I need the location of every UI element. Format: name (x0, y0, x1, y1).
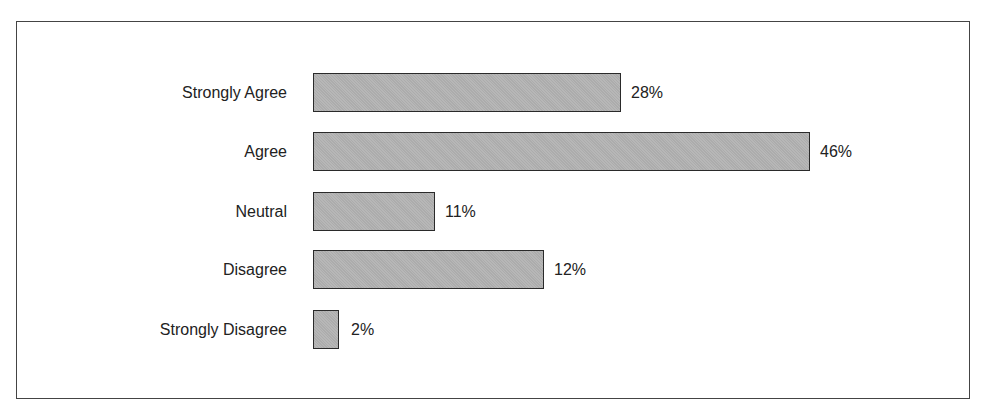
bar-strongly-disagree (313, 310, 339, 349)
category-label: Agree (0, 132, 287, 171)
bar-disagree (313, 250, 544, 289)
category-label: Strongly Disagree (0, 310, 287, 349)
bar-neutral (313, 192, 435, 231)
value-label: 12% (554, 250, 586, 289)
bar-row-strongly-disagree: Strongly Disagree 2% (17, 310, 969, 349)
value-label: 11% (445, 192, 476, 231)
bar-row-neutral: Neutral 11% (17, 192, 969, 231)
category-label: Disagree (0, 250, 287, 289)
chart-frame: Strongly Agree 28% Agree 46% Neutral 11%… (16, 21, 970, 399)
bar-row-strongly-agree: Strongly Agree 28% (17, 73, 969, 112)
bar-strongly-agree (313, 73, 621, 112)
bar-agree (313, 132, 810, 171)
value-label: 46% (820, 132, 852, 171)
category-label: Strongly Agree (0, 73, 287, 112)
value-label: 28% (631, 73, 663, 112)
category-label: Neutral (0, 192, 287, 231)
bar-row-agree: Agree 46% (17, 132, 969, 171)
bar-row-disagree: Disagree 12% (17, 250, 969, 289)
value-label: 2% (351, 310, 374, 349)
